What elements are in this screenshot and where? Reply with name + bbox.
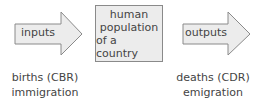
outputs-label: outputs bbox=[183, 26, 229, 39]
caption-births: births (CBR) bbox=[0, 70, 90, 85]
box-line-3: of a country bbox=[96, 34, 162, 60]
population-box: human population of a country bbox=[95, 5, 163, 62]
caption-immigration: immigration bbox=[0, 85, 90, 100]
inputs-label: inputs bbox=[15, 26, 61, 39]
caption-emigration: emigration bbox=[168, 85, 258, 100]
box-line-1: human bbox=[110, 8, 148, 21]
output-captions: deaths (CDR) emigration bbox=[168, 70, 258, 100]
input-captions: births (CBR) immigration bbox=[0, 70, 90, 100]
caption-deaths: deaths (CDR) bbox=[168, 70, 258, 85]
box-line-2: population bbox=[100, 21, 159, 34]
